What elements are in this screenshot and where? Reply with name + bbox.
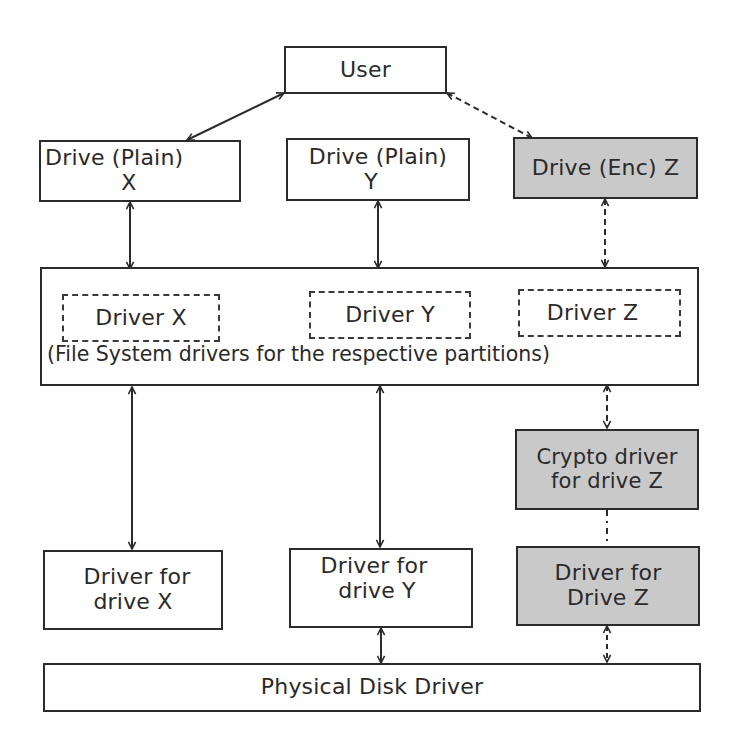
- node-driver-for-drive-x: Driver for drive X: [43, 550, 223, 630]
- node-drive-x-plain: Drive (Plain) X: [39, 140, 241, 202]
- node-drive-y-plain: Drive (Plain) Y: [286, 138, 470, 201]
- node-driver-drive-y-line2: drive Y: [338, 579, 416, 604]
- node-drive-y-line2: Y: [364, 170, 378, 195]
- node-crypto-driver-z-line2: for drive Z: [551, 470, 663, 494]
- node-drive-x-line2: X: [121, 171, 136, 196]
- file-system-layer-caption: (File System drivers for the respective …: [47, 342, 550, 366]
- node-driver-for-drive-y: Driver for drive Y: [289, 548, 473, 628]
- node-user: User: [284, 46, 447, 94]
- node-user-label: User: [340, 58, 391, 83]
- node-fs-driver-x-label: Driver X: [95, 306, 186, 331]
- node-driver-drive-z-line2: Drive Z: [567, 586, 649, 611]
- node-physical-disk-driver-label: Physical Disk Driver: [261, 675, 483, 700]
- node-driver-drive-z-line1: Driver for: [555, 561, 662, 586]
- edge-user-drive-x: [187, 93, 284, 140]
- node-fs-driver-y-label: Driver Y: [345, 303, 435, 328]
- node-fs-driver-z: Driver Z: [518, 289, 681, 337]
- node-driver-drive-x-line2: drive X: [93, 590, 172, 615]
- node-crypto-driver-z: Crypto driver for drive Z: [515, 429, 699, 510]
- encryption-driver-stack-diagram: User Drive (Plain) X Drive (Plain) Y Dri…: [0, 0, 736, 749]
- node-driver-drive-x-line1: Driver for: [84, 565, 191, 590]
- node-physical-disk-driver: Physical Disk Driver: [43, 663, 701, 712]
- node-crypto-driver-z-line1: Crypto driver: [536, 446, 677, 470]
- node-driver-drive-y-line1: Driver for: [321, 554, 428, 579]
- node-drive-z-label: Drive (Enc) Z: [532, 156, 679, 181]
- edge-user-drive-z: [447, 93, 532, 138]
- node-drive-z-encrypted: Drive (Enc) Z: [513, 137, 698, 199]
- node-fs-driver-y: Driver Y: [309, 291, 471, 339]
- node-driver-for-drive-z: Driver for Drive Z: [516, 546, 700, 626]
- node-fs-driver-z-label: Driver Z: [547, 301, 638, 326]
- node-fs-driver-x: Driver X: [62, 294, 220, 342]
- node-drive-x-line1: Drive (Plain): [41, 146, 183, 171]
- node-drive-y-line1: Drive (Plain): [309, 145, 447, 170]
